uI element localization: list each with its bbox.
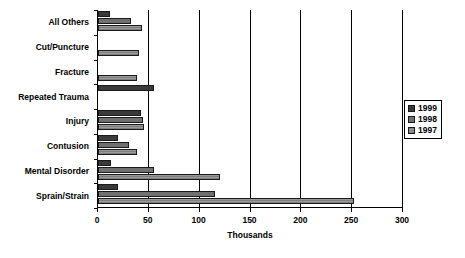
bar-1997	[98, 75, 137, 81]
x-axis-tick-label: 50	[128, 215, 168, 225]
bar-1998	[98, 142, 129, 148]
y-axis-label: Cut/Puncture	[0, 42, 89, 52]
bar-1998	[98, 191, 215, 197]
legend-item-1998: 1998	[408, 114, 437, 125]
y-axis-label: Mental Disorder	[0, 166, 89, 176]
bar-group	[98, 84, 404, 109]
legend-label: 1998	[418, 115, 437, 124]
bar-group	[98, 109, 404, 134]
bar-1998	[98, 117, 143, 123]
x-axis-title: Thousands	[97, 230, 403, 240]
legend-swatch-icon	[408, 105, 415, 112]
legend-item-1997: 1997	[408, 125, 437, 136]
x-axis-tick-label: 200	[280, 215, 320, 225]
bar-1999	[98, 110, 141, 116]
y-axis-label: Injury	[0, 116, 89, 126]
y-axis-label: Fracture	[0, 67, 89, 77]
bar-group	[98, 134, 404, 159]
x-axis-tick	[402, 208, 403, 212]
x-axis-tick-label: 300	[382, 215, 422, 225]
bar-group	[98, 35, 404, 60]
bar-group	[98, 159, 404, 184]
bar-1997	[98, 174, 220, 180]
y-axis-tick	[94, 35, 98, 36]
bar-1998	[98, 167, 154, 173]
y-axis-category-labels: All OthersCut/PunctureFractureRepeated T…	[0, 10, 93, 208]
bar-1998	[98, 18, 131, 24]
bar-group	[98, 60, 404, 85]
chart-legend: 199919981997	[404, 100, 442, 139]
bar-1997	[98, 50, 139, 56]
x-axis-tick	[148, 208, 149, 212]
legend-item-1999: 1999	[408, 103, 437, 114]
x-axis-tick	[97, 208, 98, 212]
legend-label: 1999	[418, 104, 437, 113]
y-axis-tick	[94, 60, 98, 61]
y-axis-label: All Others	[0, 17, 89, 27]
y-axis-tick	[94, 84, 98, 85]
plot-area: 050100150200250300 Thousands	[97, 10, 403, 208]
y-axis-tick	[94, 134, 98, 135]
y-axis-label: Repeated Trauma	[0, 92, 89, 102]
legend-label: 1997	[418, 126, 437, 135]
x-axis-tick	[300, 208, 301, 212]
legend-swatch-icon	[408, 127, 415, 134]
bar-1997	[98, 124, 144, 130]
y-axis-tick	[94, 109, 98, 110]
y-axis-label: Sprain/Strain	[0, 191, 89, 201]
bar-1999	[98, 11, 110, 17]
y-axis-tick	[94, 183, 98, 184]
x-axis-tick-label: 250	[331, 215, 371, 225]
x-axis-tick-label: 0	[77, 215, 117, 225]
bar-1997	[98, 198, 354, 204]
bar-chart: All OthersCut/PunctureFractureRepeated T…	[0, 0, 465, 258]
x-axis-tick	[351, 208, 352, 212]
bar-1999	[98, 135, 118, 141]
bar-1997	[98, 25, 142, 31]
y-axis-tick	[94, 10, 98, 11]
x-axis-tick	[250, 208, 251, 212]
bar-1999	[98, 160, 111, 166]
bar-1999	[98, 85, 154, 91]
legend-swatch-icon	[408, 116, 415, 123]
x-axis-tick-label: 150	[230, 215, 270, 225]
x-axis-tick	[199, 208, 200, 212]
bar-group	[98, 183, 404, 208]
bar-1999	[98, 184, 118, 190]
x-axis-tick-label: 100	[179, 215, 219, 225]
bar-1997	[98, 149, 137, 155]
y-axis-label: Contusion	[0, 141, 89, 151]
y-axis-tick	[94, 159, 98, 160]
bar-group	[98, 10, 404, 35]
